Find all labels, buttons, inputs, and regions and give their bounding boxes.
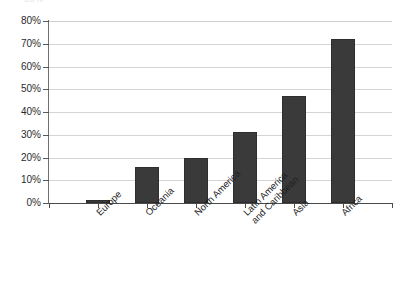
x-axis-tick xyxy=(392,203,393,208)
y-axis-tick-label: 20% xyxy=(1,153,41,163)
y-axis-tick xyxy=(43,89,49,90)
y-axis-tick xyxy=(43,158,49,159)
bar xyxy=(233,132,257,203)
y-axis-tick-label: 0% xyxy=(1,198,41,208)
y-axis-tick xyxy=(43,44,49,45)
y-axis-tick-label: 10% xyxy=(1,175,41,185)
y-axis-tick-label: 50% xyxy=(1,84,41,94)
gridline xyxy=(49,21,392,22)
y-axis-tick-label: 80% xyxy=(1,16,41,26)
y-axis-tick xyxy=(43,21,49,22)
x-axis-tick xyxy=(49,203,50,208)
y-axis-tick xyxy=(43,112,49,113)
y-axis-tick-label: 60% xyxy=(1,62,41,72)
plot-area xyxy=(49,21,392,203)
y-axis-tick xyxy=(43,67,49,68)
y-axis-tick-label: 40% xyxy=(1,107,41,117)
y-axis-tick-label: 30% xyxy=(1,130,41,140)
bar xyxy=(331,39,355,203)
y-axis-tick xyxy=(43,135,49,136)
y-axis-tick xyxy=(43,180,49,181)
y-axis-tick-label: 70% xyxy=(1,39,41,49)
bar-chart-figure: 90% 0%10%20%30%40%50%60%70%80% EuropeOce… xyxy=(0,0,400,288)
y-axis-tick-labels: 0%10%20%30%40%50%60%70%80% xyxy=(0,0,41,288)
